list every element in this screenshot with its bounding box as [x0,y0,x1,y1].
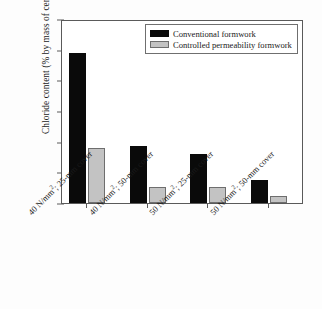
bar-cpf-4 [270,196,287,203]
legend-label-cpf: Controlled permeability formwork [173,40,292,50]
x-tick-mark [268,204,269,208]
x-tick-mark [86,204,87,208]
y-axis-title: Chloride content (% by mass of cement) [41,0,51,152]
bar-conventional-4 [251,180,268,203]
legend-swatch-cpf-icon [150,41,169,48]
legend-item-conventional: Conventional formwork [150,28,292,39]
legend-swatch-conventional-icon [150,30,169,37]
legend-item-cpf: Controlled permeability formwork [150,39,292,50]
chart-figure: Chloride content (% by mass of cement) 0… [0,0,322,309]
legend-label-conventional: Conventional formwork [173,29,256,39]
x-tick-mark [207,204,208,208]
chart-legend: Conventional formwork Controlled permeab… [145,24,298,54]
bar-conventional-1 [69,53,86,203]
x-tick-mark [147,204,148,208]
